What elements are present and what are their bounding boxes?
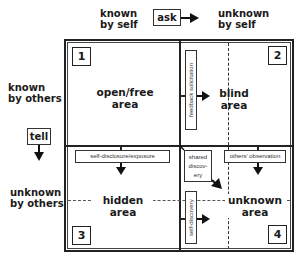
others-observation-box: others' observation xyxy=(224,150,286,163)
known-by-self-label: knownby self xyxy=(100,8,138,30)
feedback-solicitation-box: feedback solicitation xyxy=(185,50,197,130)
tell-arrow-icon xyxy=(34,152,44,161)
self-discovery-arrow-icon xyxy=(202,214,210,224)
hidden-area-label: hiddenarea xyxy=(93,194,153,218)
unknown-by-self-label: unknownby self xyxy=(218,8,269,30)
quadrant-2-number: 2 xyxy=(268,46,287,65)
self-discovery-box: self-discovery xyxy=(185,191,197,244)
known-by-others-label: knownby others xyxy=(8,82,62,104)
self-disclosure-tick xyxy=(120,145,122,150)
unknown-by-others-label: unknownby others xyxy=(10,187,64,209)
self-disclosure-box: self-disclosure/exposure xyxy=(75,150,170,163)
quadrant-1-number: 1 xyxy=(72,47,91,66)
quadrant-3-number: 3 xyxy=(72,226,91,245)
open-area-label: open/freearea xyxy=(85,86,165,110)
feedback-arrow-icon xyxy=(202,91,210,101)
ask-arrow-icon xyxy=(190,13,199,23)
self-discovery-tick xyxy=(179,218,185,220)
blind-area-label: blindarea xyxy=(214,87,254,111)
others-observation-arrow-icon xyxy=(253,167,263,175)
unknown-area-label: unknownarea xyxy=(225,194,285,218)
tell-box: tell xyxy=(27,128,51,145)
feedback-tick xyxy=(179,95,185,97)
others-observation-tick xyxy=(257,145,259,150)
dashed-vertical-line xyxy=(228,43,229,249)
ask-box: ask xyxy=(153,9,181,26)
quadrant-4-number: 4 xyxy=(268,225,287,244)
shared-discovery-arrow-icon xyxy=(178,144,228,189)
self-disclosure-arrow-icon xyxy=(116,167,126,175)
